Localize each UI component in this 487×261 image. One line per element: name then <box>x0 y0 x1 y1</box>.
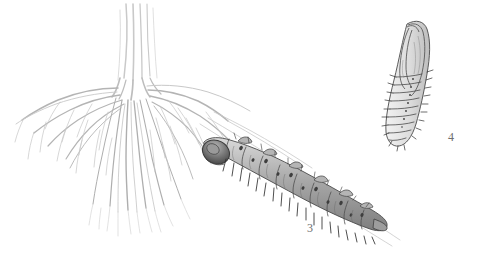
pupa-figure <box>0 0 487 261</box>
figure-label-4: 4 <box>448 131 454 143</box>
illustration-plate: 3 4 <box>0 0 487 261</box>
pupa-body <box>386 21 430 146</box>
figure-label-3: 3 <box>307 222 313 234</box>
